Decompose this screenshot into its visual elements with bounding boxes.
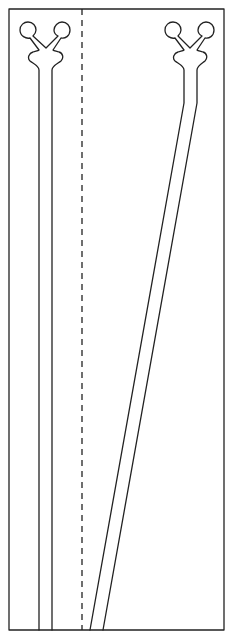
microfluidic-channel-diagram [0, 0, 229, 640]
angled-channel-outline [90, 22, 214, 630]
outer-frame [9, 9, 224, 630]
straight-channel-outline [20, 22, 70, 630]
